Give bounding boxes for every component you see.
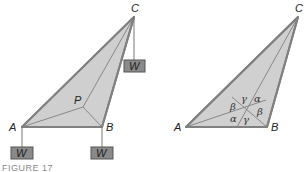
weight-label-c: W [129,60,141,72]
left-vertex-label-p: P [74,94,82,106]
left-vertex-label-c: C [131,2,139,14]
weight-label-b: W [96,147,108,159]
angle-label-beta-left: β [229,101,236,112]
angle-label-alpha-top-right: α [254,93,261,104]
angle-label-alpha-bottom-left: α [230,113,237,124]
weight-label-a: W [16,147,28,159]
left-diagram: W W W A B C P [8,2,145,159]
angle-label-gamma-top: γ [241,93,247,104]
figure-caption: FIGURE 17 [2,163,53,172]
left-vertex-label-b: B [106,121,113,133]
right-vertex-label-a: A [173,121,181,133]
left-vertex-label-a: A [8,121,16,133]
right-vertex-label-c: C [295,2,303,14]
angle-label-beta-right: β [256,106,263,117]
right-diagram: γ α β β α γ A B C [173,2,303,133]
right-vertex-label-b: B [271,121,278,133]
angle-label-gamma-bottom: γ [243,114,249,125]
figure-canvas: W W W A B C P γ α β β α γ A B C FIGURE 1… [0,0,304,172]
